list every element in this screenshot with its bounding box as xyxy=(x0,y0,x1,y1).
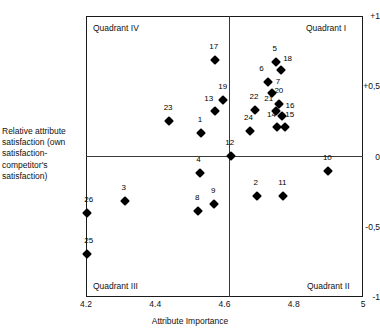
data-point-label: 1 xyxy=(198,116,202,124)
data-point-label: 18 xyxy=(283,55,292,63)
y-tick-label: -0,5 xyxy=(300,223,380,232)
data-point-label: 9 xyxy=(211,187,215,195)
data-point-label: 13 xyxy=(204,95,213,103)
x-tick-label: 5 xyxy=(361,300,366,309)
data-point-label: 16 xyxy=(286,102,295,110)
data-point-label: 12 xyxy=(225,139,234,147)
data-point-label: 5 xyxy=(273,45,277,53)
data-point-label: 17 xyxy=(209,43,218,51)
data-point-label: 19 xyxy=(218,83,227,91)
y-axis-title-line: satisfaction- xyxy=(2,148,78,159)
quadrant-label-ii: Quadrant II xyxy=(307,282,350,291)
y-axis-title: Relative attributesatisfaction (ownsatis… xyxy=(2,126,78,182)
y-axis-title-line: Relative attribute xyxy=(2,126,78,137)
y-tick-label: 0 xyxy=(300,153,380,162)
data-point-label: 21 xyxy=(264,95,273,103)
x-axis-title: Attribute Importance xyxy=(0,316,380,326)
data-point-label: 4 xyxy=(196,156,200,164)
data-point-label: 3 xyxy=(122,184,126,192)
quadrant-label-i: Quadrant I xyxy=(306,24,346,33)
data-point-label: 23 xyxy=(164,104,173,112)
y-tick-label: +1 xyxy=(300,12,380,21)
y-axis-title-line: satisfaction) xyxy=(2,171,78,182)
data-point-label: 8 xyxy=(195,194,199,202)
quadrant-label-iii: Quadrant III xyxy=(93,282,138,291)
x-tick-label: 4.8 xyxy=(288,300,300,309)
data-point-label: 22 xyxy=(250,93,259,101)
data-point-label: 6 xyxy=(259,65,263,73)
y-axis-title-line: satisfaction (own xyxy=(2,137,78,148)
y-tick-label: +0,5 xyxy=(300,82,380,91)
x-tick-label: 4.4 xyxy=(149,300,161,309)
data-point-label: 26 xyxy=(84,196,93,204)
y-axis-title-line: competitor's xyxy=(2,160,78,171)
data-point-label: 25 xyxy=(84,237,93,245)
quadrant-label-iv: Quadrant IV xyxy=(93,24,139,33)
data-point-label: 10 xyxy=(323,154,332,162)
data-point-label: 2 xyxy=(253,179,257,187)
x-tick-label: 4.2 xyxy=(80,300,92,309)
data-point-label: 7 xyxy=(276,78,280,86)
data-point-label: 24 xyxy=(244,114,253,122)
y-tick-label: -1 xyxy=(300,293,380,302)
scatter-chart: Quadrant IV Quadrant I Quadrant III Quad… xyxy=(0,0,380,332)
data-point-label: 11 xyxy=(278,179,286,187)
x-tick-label: 4.6 xyxy=(219,300,231,309)
data-point-label: 20 xyxy=(274,87,283,95)
